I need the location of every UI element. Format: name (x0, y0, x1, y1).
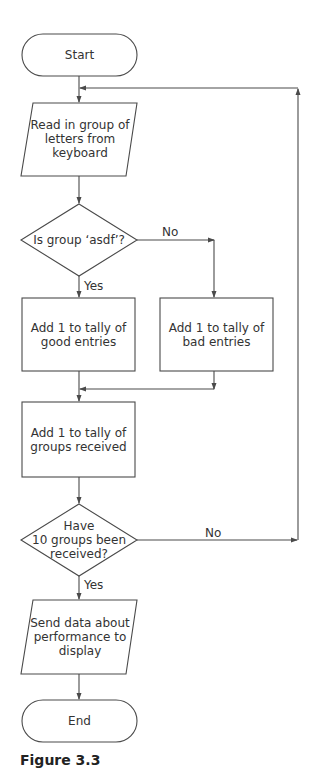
ten-yes-label: Yes (84, 578, 103, 592)
send-output-label: Send data about performance to display (25, 616, 135, 658)
read-input-label: Read in group of letters from keyboard (25, 118, 135, 160)
good-tally-label: Add 1 to tally of good entries (22, 321, 135, 349)
asdf-no-label: No (162, 225, 178, 239)
bad-tally-label: Add 1 to tally of bad entries (160, 321, 273, 349)
figure-caption: Figure 3.3 (20, 752, 100, 768)
start-label: Start (22, 48, 137, 62)
asdf-yes-label: Yes (84, 279, 103, 293)
end-label: End (22, 714, 137, 728)
groups-tally-label: Add 1 to tally of groups received (22, 426, 135, 454)
ten-no-label: No (205, 526, 221, 540)
decision-asdf-label: Is group ‘asdf’? (21, 233, 137, 247)
decision-ten-label: Have 10 groups been received? (21, 519, 137, 561)
